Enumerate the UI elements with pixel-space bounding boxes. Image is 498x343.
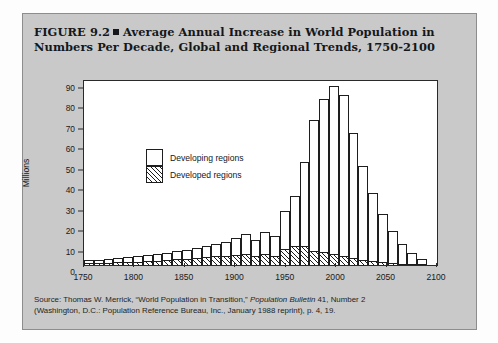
x-axis-tick-mark <box>133 263 134 267</box>
x-axis-tick-label: 2050 <box>376 272 395 282</box>
bar-segment-developing <box>162 253 172 260</box>
bar-column <box>319 81 329 265</box>
bar-column <box>349 81 359 265</box>
bar-segment-developed <box>123 262 133 265</box>
chart: Millions 0102030405060708090 Developing … <box>36 72 466 287</box>
bar-segment-developing <box>309 120 319 251</box>
x-axis-tick-mark <box>83 263 84 267</box>
bar-column <box>133 81 143 265</box>
bar-segment-developed <box>84 263 94 265</box>
bar-segment-developed <box>231 255 241 265</box>
bar-segment-developing <box>251 240 261 256</box>
bar-segment-developed <box>388 263 398 265</box>
bar-column <box>309 81 319 265</box>
bar-segment-developed <box>319 252 329 265</box>
bar-segment-developed <box>270 256 280 265</box>
y-axis: Millions 0102030405060708090 <box>36 80 83 266</box>
bar-column <box>94 81 104 265</box>
bar-segment-developing <box>329 86 339 254</box>
source-publication-title: Population Bulletin <box>250 295 315 304</box>
bar-segment-developed <box>260 254 270 265</box>
bar-column <box>113 81 123 265</box>
bar-column <box>329 81 339 265</box>
figure-title: FIGURE 9.2Average Annual Increase in Wor… <box>34 25 454 55</box>
bar-segment-developing <box>339 95 349 256</box>
bar-column <box>290 81 300 265</box>
bar-segment-developed <box>241 254 251 265</box>
bar-segment-developed <box>113 262 123 265</box>
bar-segment-developing <box>192 248 202 258</box>
bar-segment-developed <box>192 258 202 265</box>
bar-column <box>280 81 290 265</box>
bar-segment-developing <box>368 193 378 261</box>
figure-panel: FIGURE 9.2Average Annual Increase in Wor… <box>22 13 477 330</box>
bar-column <box>417 81 427 265</box>
legend-label-developed: Developed regions <box>170 170 242 180</box>
bar-segment-developing <box>280 211 290 249</box>
source-text-a: Source: Thomas W. Merrick, “World Popula… <box>34 295 250 304</box>
x-axis-tick-label: 1900 <box>225 272 244 282</box>
bar-segment-developed <box>329 254 339 265</box>
bar-segment-developing <box>300 162 310 247</box>
bar-segment-developed <box>94 263 104 265</box>
y-axis-tick-label: 70 <box>45 124 75 134</box>
x-axis-tick-label: 2100 <box>426 272 445 282</box>
source-text-b: 41, Number 2 <box>315 295 365 304</box>
bar-column <box>398 81 408 265</box>
legend-item-developed: Developed regions <box>146 166 274 183</box>
x-axis-tick-mark <box>285 263 286 267</box>
figure-title-text-b: Numbers Per Decade, Global and Regional … <box>34 40 435 54</box>
bar-segment-developed <box>133 262 143 265</box>
legend-label-developing: Developing regions <box>170 153 244 163</box>
bar-segment-developed <box>398 264 408 265</box>
x-axis-tick-mark <box>436 263 437 267</box>
bar-segment-developed <box>368 261 378 265</box>
bar-segment-developed <box>290 246 300 265</box>
figure-title-text-a: Average Annual Increase in World Populat… <box>123 25 435 39</box>
x-axis-tick-label: 1800 <box>124 272 143 282</box>
bar-segment-developed <box>251 256 261 265</box>
bar-segment-developing <box>202 246 212 257</box>
bar-segment-developed <box>211 256 221 265</box>
bar-segment-developing <box>407 253 417 264</box>
bar-segment-developed <box>104 263 114 265</box>
y-axis-tick-label: 30 <box>45 206 75 216</box>
bar-column <box>339 81 349 265</box>
y-axis-tick-label: 40 <box>45 185 75 195</box>
bar-segment-developing <box>270 236 280 255</box>
bar-segment-developed <box>417 264 427 265</box>
y-axis-tick-label: 60 <box>45 144 75 154</box>
x-axis-tick-label: 1750 <box>73 272 92 282</box>
x-axis-tick-mark <box>184 263 185 267</box>
figure-source: Source: Thomas W. Merrick, “World Popula… <box>34 295 466 316</box>
bar-segment-developing <box>221 242 231 256</box>
bar-segment-developing <box>182 250 192 259</box>
bar-column <box>407 81 417 265</box>
bar-segment-developed <box>202 257 212 265</box>
x-axis-tick-label: 1950 <box>275 272 294 282</box>
y-axis-tick-label: 10 <box>45 247 75 257</box>
y-axis-label: Millions <box>21 159 31 188</box>
legend-swatch-developing-icon <box>146 149 163 166</box>
chart-legend: Developing regions Developed regions <box>146 149 274 183</box>
bar-segment-developing <box>241 234 251 254</box>
bar-segment-developed <box>300 246 310 265</box>
y-axis-tick-label: 90 <box>45 83 75 93</box>
plot-area: Developing regions Developed regions <box>83 80 438 266</box>
bar-segment-developed <box>153 261 163 265</box>
bar-segment-developing <box>378 214 388 262</box>
bar-segment-developed <box>221 256 231 265</box>
figure-page: FIGURE 9.2Average Annual Increase in Wor… <box>0 0 498 343</box>
bar-column <box>358 81 368 265</box>
legend-item-developing: Developing regions <box>146 149 274 166</box>
bar-segment-developing <box>319 99 329 252</box>
bar-column <box>388 81 398 265</box>
bar-segment-developed <box>309 251 319 265</box>
bar-segment-developed <box>162 260 172 265</box>
x-axis-tick-label: 1850 <box>174 272 193 282</box>
y-axis-tick-label: 0 <box>45 267 75 277</box>
bar-segment-developing <box>260 232 270 253</box>
bar-segment-developing <box>388 231 398 263</box>
bar-segment-developing <box>211 244 221 257</box>
bar-segment-developed <box>358 260 368 265</box>
